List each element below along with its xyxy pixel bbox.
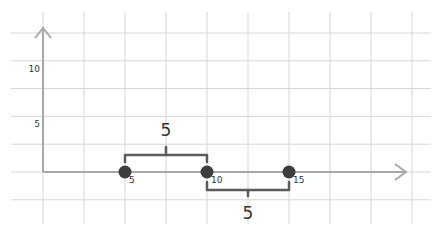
brace-label-above: 5 <box>161 120 172 140</box>
point-label-5: 5 <box>129 175 135 185</box>
diagram-canvas: 10 5 5 5 5 10 15 <box>0 0 441 235</box>
point-label-10: 10 <box>211 175 223 185</box>
y-tick-label-10: 10 <box>29 64 41 74</box>
grid <box>11 12 431 224</box>
y-tick-label-5: 5 <box>34 119 40 129</box>
y-tick-labels: 10 5 <box>29 64 41 129</box>
points: 5 10 15 <box>119 166 305 186</box>
brace-label-below: 5 <box>243 203 254 223</box>
number-line-diagram: 10 5 5 5 5 10 15 <box>0 0 441 235</box>
point-label-15: 15 <box>293 175 304 185</box>
axes <box>35 27 406 180</box>
